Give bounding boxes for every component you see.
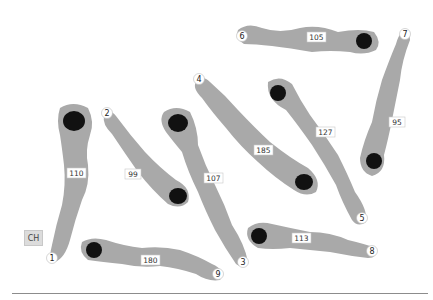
id-marker-2: 2 [102,108,113,119]
id-marker-9: 9 [213,269,224,280]
length-label-1: 110 [67,168,86,178]
id-marker-8: 8 [367,246,378,257]
length-label-9: 180 [141,255,160,265]
baseline-divider [12,293,428,294]
svg-text:6: 6 [239,32,244,41]
length-labels: 110 99 107 185 127 105 [67,32,405,265]
nucleus [86,242,102,258]
length-label-5: 127 [316,127,335,137]
svg-text:3: 3 [240,258,245,267]
svg-text:110: 110 [69,169,84,178]
id-marker-6: 6 [237,31,248,42]
id-marker-7: 7 [400,29,411,40]
svg-text:2: 2 [104,109,109,118]
nucleus [366,153,382,169]
nucleus [270,85,286,101]
cell-body [247,223,376,258]
nucleus [63,111,85,131]
svg-text:9: 9 [215,270,220,279]
cell-5 [268,78,366,224]
svg-text:5: 5 [359,214,364,223]
id-marker-1: 1 [47,253,58,264]
length-label-7: 95 [389,117,405,127]
nucleus [295,174,313,190]
cell-diagram: 110 99 107 185 127 105 [0,0,433,300]
id-marker-3: 3 [238,257,249,268]
svg-text:95: 95 [392,118,402,127]
length-label-3: 107 [204,173,223,183]
nucleus [168,114,188,132]
id-marker-5: 5 [357,213,368,224]
svg-text:7: 7 [402,30,407,39]
nucleus [251,228,267,244]
svg-text:105: 105 [309,33,324,42]
svg-text:113: 113 [294,234,309,243]
nucleus [356,33,372,49]
svg-text:1: 1 [49,254,54,263]
length-label-2: 99 [125,169,141,179]
svg-text:4: 4 [196,75,201,84]
length-label-8: 113 [292,233,311,243]
cell-8 [247,223,376,258]
length-label-4: 185 [254,145,273,155]
cell-1 [51,104,93,262]
svg-text:99: 99 [128,170,138,179]
svg-text:8: 8 [369,247,374,256]
id-marker-4: 4 [194,74,205,85]
svg-text:185: 185 [256,146,271,155]
nucleus [169,188,187,204]
length-label-6: 105 [307,32,326,42]
cell-body [268,78,366,224]
svg-text:127: 127 [318,128,333,137]
svg-text:107: 107 [206,174,221,183]
ch-legend-box: CH [24,230,43,246]
svg-text:180: 180 [143,256,158,265]
